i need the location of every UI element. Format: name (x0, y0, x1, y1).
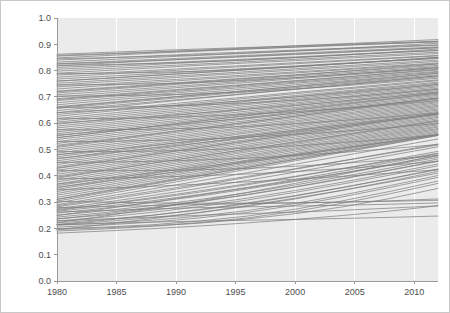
y-tick-label: 0.1 (38, 250, 51, 260)
y-tick-label: 0.5 (38, 145, 51, 155)
y-tick-label: 0.8 (38, 66, 51, 76)
x-tick-label: 2005 (345, 287, 365, 297)
chart-svg: 0.00.10.20.30.40.50.60.70.80.91.01980198… (1, 1, 450, 313)
y-tick-label: 0.4 (38, 171, 51, 181)
x-tick-label: 1980 (47, 287, 67, 297)
y-tick-label: 0.2 (38, 224, 51, 234)
y-tick-label: 0.6 (38, 118, 51, 128)
y-tick-label: 0.7 (38, 92, 51, 102)
y-tick-label: 0.9 (38, 40, 51, 50)
x-tick-label: 1995 (226, 287, 246, 297)
y-tick-label: 1.0 (38, 13, 51, 23)
x-tick-label: 1985 (107, 287, 127, 297)
y-tick-label: 0.0 (38, 276, 51, 286)
chart-figure: 0.00.10.20.30.40.50.60.70.80.91.01980198… (0, 0, 450, 313)
x-tick-label: 2010 (404, 287, 424, 297)
x-tick-label: 2000 (285, 287, 305, 297)
y-tick-label: 0.3 (38, 197, 51, 207)
x-tick-label: 1990 (166, 287, 186, 297)
